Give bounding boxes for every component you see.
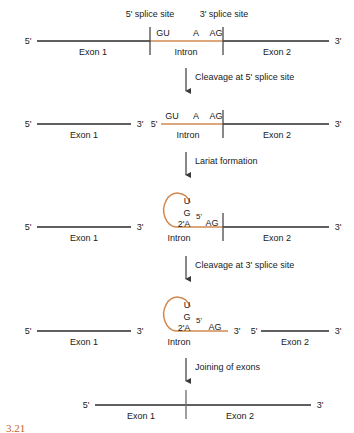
- diagram-canvas: 5' 3' Exon 1 Intron Exon 2 GU A AG 5' sp…: [0, 0, 354, 433]
- row4-u-nucleotide: U: [184, 300, 191, 310]
- row4-intron-label: Intron: [167, 337, 190, 347]
- row1-gu-nucleotides: GU: [156, 28, 170, 38]
- row-2: 5' 3' Exon 1 5' 3' GU A AG Intron Exon 2: [25, 110, 342, 140]
- step-4-arrow-group: Joining of exons: [186, 358, 261, 381]
- row2-exon1-three-prime: 3': [137, 119, 144, 129]
- row4-intron-three-prime: 3': [234, 326, 241, 336]
- row5-exon1-label: Exon 1: [127, 411, 155, 421]
- row3-branch-point-a: 2'A: [178, 219, 191, 229]
- figure-caption: 3.21: [6, 423, 25, 433]
- row4-exon2-label: Exon 2: [281, 337, 309, 347]
- row1-exon2-label: Exon 2: [263, 47, 291, 57]
- row5-three-prime-end: 3': [317, 400, 324, 410]
- step-2-label: Lariat formation: [195, 156, 258, 166]
- row-5: 5' 3' Exon 1 Exon 2: [83, 390, 324, 421]
- step-2-arrow-group: Lariat formation: [186, 152, 258, 175]
- step-3-arrow-group: Cleavage at 3' splice site: [186, 256, 294, 279]
- row2-exon1-label: Exon 1: [70, 130, 98, 140]
- row3-three-prime-end: 3': [335, 222, 342, 232]
- row2-gu-nucleotides: GU: [165, 111, 179, 121]
- row4-exon1-label: Exon 1: [70, 337, 98, 347]
- row-3: 5' 3' Exon 1 3' U G 5' 2'A AG Intron Exo…: [25, 193, 342, 243]
- row3-g-nucleotide: G: [183, 208, 190, 218]
- row5-exon2-label: Exon 2: [226, 411, 254, 421]
- row3-u-nucleotide: U: [184, 196, 191, 206]
- row3-intron-label: Intron: [167, 233, 190, 243]
- row3-five-prime-branch: 5': [196, 212, 202, 221]
- row4-exon2-three-prime: 3': [335, 326, 342, 336]
- row4-ag-nucleotides: AG: [208, 322, 221, 332]
- row3-exon1-three-prime: 3': [137, 222, 144, 232]
- row1-ag-nucleotides: AG: [209, 28, 222, 38]
- row2-exon2-label: Exon 2: [263, 130, 291, 140]
- step-1-label: Cleavage at 5' splice site: [195, 72, 294, 82]
- row3-ag-nucleotides: AG: [205, 218, 218, 228]
- five-splice-site-annotation: 5' splice site: [126, 9, 175, 19]
- row4-five-prime-branch: 5': [196, 316, 202, 325]
- step-4-label: Joining of exons: [195, 362, 261, 372]
- three-splice-site-annotation: 3' splice site: [200, 9, 249, 19]
- row2-branch-a-nucleotide: A: [193, 111, 199, 121]
- row1-intron-label: Intron: [174, 47, 197, 57]
- row2-ag-nucleotides: AG: [209, 111, 222, 121]
- splicing-diagram: 5' 3' Exon 1 Intron Exon 2 GU A AG 5' sp…: [0, 0, 354, 433]
- row2-exon1-five-prime: 5': [25, 119, 32, 129]
- row2-intron-label: Intron: [176, 130, 199, 140]
- row3-exon1-five-prime: 5': [25, 222, 32, 232]
- row4-exon2-five-prime: 5': [251, 326, 258, 336]
- step-1-arrow-group: Cleavage at 5' splice site: [186, 68, 294, 91]
- row2-intron-five-prime: 5': [151, 119, 158, 129]
- row2-three-prime-end: 3': [335, 119, 342, 129]
- row3-exon1-label: Exon 1: [70, 233, 98, 243]
- row4-exon1-five-prime: 5': [25, 326, 32, 336]
- row-1: 5' 3' Exon 1 Intron Exon 2 GU A AG 5' sp…: [25, 9, 342, 57]
- row3-exon2-label: Exon 2: [263, 233, 291, 243]
- row1-five-prime-end: 5': [25, 36, 32, 46]
- row-4: 5' 3' Exon 1 3' U G 5' 2'A AG Intron 5' …: [25, 297, 342, 347]
- row1-three-prime-end: 3': [335, 36, 342, 46]
- step-3-label: Cleavage at 3' splice site: [195, 260, 294, 270]
- row5-five-prime-end: 5': [83, 400, 90, 410]
- row4-g-nucleotide: G: [183, 312, 190, 322]
- row4-branch-point-a: 2'A: [178, 323, 191, 333]
- row1-branch-a-nucleotide: A: [193, 28, 199, 38]
- row1-exon1-label: Exon 1: [79, 47, 107, 57]
- row4-exon1-three-prime: 3': [137, 326, 144, 336]
